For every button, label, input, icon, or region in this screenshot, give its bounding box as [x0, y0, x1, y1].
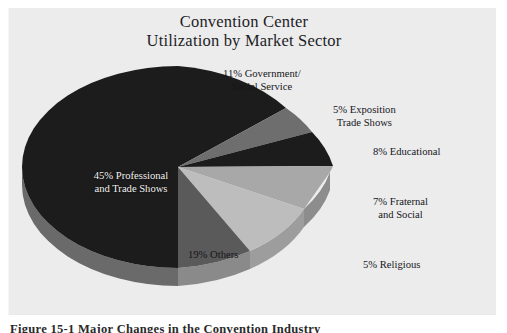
slice-label-exposition-trade-shows: 5% Exposition Trade Shows [333, 104, 396, 130]
slice-label-line-1: 11% Government/ [223, 68, 301, 79]
slice-label-line-2: Social Service [223, 81, 301, 94]
slice-label-religious: 5% Religious [363, 259, 420, 272]
slice-label-others: 19% Others [188, 249, 238, 262]
slice-label-line-1: 45% Professional [94, 170, 168, 181]
slice-label-educational: 8% Educational [373, 146, 440, 159]
chart-stage: 11% Government/ Social Service 5% Exposi… [0, 0, 488, 307]
figure-caption: Figure 15-1 Major Changes in the Convent… [10, 322, 490, 333]
slice-label-line-1: 19% Others [188, 249, 238, 260]
slice-label-line-2: and Social [373, 209, 428, 222]
slice-label-line-2: Trade Shows [333, 117, 396, 130]
slice-label-government-social-service: 11% Government/ Social Service [223, 68, 301, 94]
slice-label-fraternal-and-social: 7% Fraternal and Social [373, 196, 428, 222]
figure-root: Convention Center Utilization by Market … [0, 0, 507, 333]
slice-label-line-1: 7% Fraternal [373, 196, 428, 207]
slice-label-line-1: 5% Exposition [333, 104, 396, 115]
slice-label-line-2: and Trade Shows [66, 183, 196, 196]
slice-label-line-1: 5% Religious [363, 259, 420, 270]
slice-label-line-1: 8% Educational [373, 146, 440, 157]
slice-label-professional-trade-shows: 45% Professional and Trade Shows [66, 170, 196, 196]
